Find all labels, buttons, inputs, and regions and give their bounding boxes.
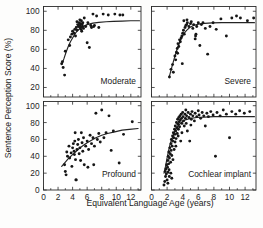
data-point (234, 113, 237, 116)
data-point (198, 114, 201, 117)
data-point (201, 111, 204, 114)
data-point (188, 140, 191, 143)
data-point (94, 112, 97, 115)
data-point (181, 111, 184, 114)
y-tick-label: 40 (30, 63, 40, 73)
data-point (73, 150, 76, 153)
data-point (187, 111, 190, 114)
panel-label-cochlear-implant: Cochlear implant (188, 169, 252, 179)
data-point (81, 141, 84, 144)
data-point (204, 124, 207, 127)
data-point (209, 110, 212, 113)
data-point (118, 14, 121, 17)
data-point (84, 145, 87, 148)
data-point (81, 21, 84, 24)
data-point (174, 141, 177, 144)
data-point (170, 154, 173, 157)
y-tick-label: 100 (26, 6, 40, 16)
data-point (173, 55, 176, 58)
panel-severe: Severe (152, 7, 257, 98)
data-point (176, 52, 179, 55)
data-point (219, 17, 222, 20)
data-point (170, 149, 173, 152)
data-point (174, 58, 177, 61)
data-point (113, 13, 116, 16)
data-point (183, 33, 186, 36)
data-point (175, 137, 178, 140)
data-point (92, 136, 95, 139)
data-point (62, 66, 65, 69)
data-point (170, 68, 173, 71)
data-point (78, 152, 81, 155)
data-point (239, 16, 242, 19)
data-point (87, 148, 90, 151)
data-point (248, 110, 251, 113)
data-point (205, 112, 208, 115)
data-point (74, 35, 77, 38)
data-point (168, 157, 171, 160)
y-tick-label: 20 (30, 168, 40, 178)
data-point (169, 161, 172, 164)
data-point (72, 142, 75, 145)
data-point (202, 21, 205, 24)
data-point (178, 125, 181, 128)
panel-cochlear-implant: 024681012Cochlear implant (149, 102, 256, 202)
data-point (191, 114, 194, 117)
y-tick-label: 60 (30, 134, 40, 144)
data-point (74, 158, 77, 161)
data-point (212, 21, 215, 24)
data-point (235, 15, 238, 18)
data-point (76, 29, 79, 32)
data-point (190, 118, 193, 121)
data-point (92, 13, 95, 16)
data-point (184, 108, 187, 111)
data-point (67, 38, 70, 41)
data-point (64, 170, 67, 173)
data-point (174, 130, 177, 133)
data-point (176, 132, 179, 135)
data-point (180, 131, 183, 134)
data-point (82, 136, 85, 139)
data-point (238, 109, 241, 112)
data-point (88, 46, 91, 49)
x-tick-label: 0 (41, 192, 46, 202)
data-point (164, 175, 167, 178)
data-point (73, 153, 76, 156)
data-point (195, 25, 198, 28)
data-point (89, 134, 92, 137)
panel-profound: 024681012020406080100Profound (26, 101, 141, 202)
data-point (202, 114, 205, 117)
y-tick-label: 80 (30, 118, 40, 128)
data-point (189, 124, 192, 127)
data-point (61, 60, 64, 63)
data-point (184, 117, 187, 120)
x-tick-label: 10 (225, 192, 235, 202)
data-point (76, 143, 79, 146)
data-point (68, 44, 71, 47)
scatter-figure: 20406080100ModerateSevere024681012020406… (0, 0, 263, 228)
data-point (246, 19, 249, 22)
y-tick-label: 100 (26, 101, 40, 111)
data-point (199, 117, 202, 120)
data-point (206, 53, 209, 56)
data-point (170, 177, 173, 180)
data-point (197, 21, 200, 24)
data-point (83, 16, 86, 19)
data-point (173, 148, 176, 151)
data-point (75, 178, 78, 181)
data-point (70, 165, 73, 168)
panel-label-moderate: Moderate (101, 76, 137, 86)
data-point (63, 163, 66, 166)
x-axis-title: Equivalent Language Age (years) (86, 198, 213, 208)
data-point (93, 145, 96, 148)
data-point (86, 41, 89, 44)
data-point (74, 131, 77, 134)
data-point (193, 119, 196, 122)
data-point (230, 16, 233, 19)
data-point (215, 28, 218, 31)
data-point (191, 27, 194, 30)
data-point (84, 25, 87, 28)
data-point (82, 27, 85, 30)
data-point (81, 150, 84, 153)
data-point (187, 25, 190, 28)
